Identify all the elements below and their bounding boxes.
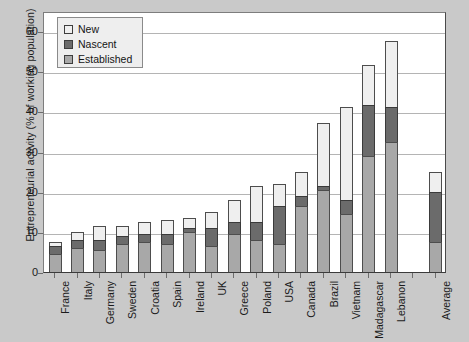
bar-segment-established[interactable] bbox=[93, 250, 106, 272]
bar-segment-new[interactable] bbox=[340, 107, 353, 199]
bar-stack[interactable] bbox=[429, 172, 442, 272]
y-tick-label: 30 bbox=[0, 146, 38, 158]
bar-stack[interactable] bbox=[161, 220, 174, 272]
bar-segment-new[interactable] bbox=[71, 232, 84, 240]
bar-segment-new[interactable] bbox=[273, 184, 286, 206]
y-tick-label: 40 bbox=[0, 105, 38, 117]
bar-stack[interactable] bbox=[116, 226, 129, 272]
x-tick-label: Italy bbox=[82, 281, 94, 342]
bar-segment-established[interactable] bbox=[295, 206, 308, 272]
bar-segment-established[interactable] bbox=[317, 190, 330, 272]
y-tick-label: 50 bbox=[0, 65, 38, 77]
legend-item-established: Established bbox=[64, 52, 137, 66]
bar-segment-new[interactable] bbox=[429, 172, 442, 192]
bar-segment-established[interactable] bbox=[71, 248, 84, 272]
bar-segment-established[interactable] bbox=[273, 244, 286, 272]
bar-segment-established[interactable] bbox=[228, 234, 241, 272]
bar-segment-new[interactable] bbox=[295, 172, 308, 196]
bar-segment-nascent[interactable] bbox=[93, 240, 106, 250]
legend-item-new: New bbox=[64, 22, 137, 36]
bar-segment-nascent[interactable] bbox=[49, 246, 62, 254]
x-tick-mark bbox=[256, 273, 257, 278]
bar-segment-established[interactable] bbox=[340, 214, 353, 272]
bar-segment-nascent[interactable] bbox=[228, 222, 241, 234]
legend-swatch-nascent bbox=[64, 40, 73, 49]
x-tick-mark bbox=[300, 273, 301, 278]
bar-segment-established[interactable] bbox=[161, 244, 174, 272]
bar-segment-nascent[interactable] bbox=[295, 196, 308, 206]
bar-segment-nascent[interactable] bbox=[71, 240, 84, 248]
legend-swatch-new bbox=[64, 25, 73, 34]
y-axis-title: Entrepreneurial activity (% of working p… bbox=[24, 0, 38, 260]
x-tick-mark bbox=[99, 273, 100, 278]
x-tick-label: Germany bbox=[104, 281, 116, 342]
bar-stack[interactable] bbox=[273, 184, 286, 272]
legend-label-established: Established bbox=[78, 53, 132, 65]
x-tick-label: Croatia bbox=[149, 281, 161, 342]
bar-segment-new[interactable] bbox=[183, 218, 196, 228]
x-tick-mark bbox=[278, 273, 279, 278]
bar-segment-established[interactable] bbox=[183, 232, 196, 272]
bar-stack[interactable] bbox=[93, 226, 106, 272]
bar-segment-nascent[interactable] bbox=[116, 236, 129, 244]
bar-segment-established[interactable] bbox=[250, 240, 263, 272]
bar-segment-nascent[interactable] bbox=[362, 105, 375, 155]
bar-segment-new[interactable] bbox=[161, 220, 174, 234]
x-tick-mark bbox=[368, 273, 369, 278]
bar-stack[interactable] bbox=[228, 200, 241, 272]
bar-stack[interactable] bbox=[49, 242, 62, 272]
bar-stack[interactable] bbox=[385, 41, 398, 272]
x-tick-label: Madagascar bbox=[373, 281, 385, 342]
bar-segment-nascent[interactable] bbox=[340, 200, 353, 214]
x-tick-label: Lebanon bbox=[395, 281, 407, 342]
bar-stack[interactable] bbox=[295, 172, 308, 272]
bar-stack[interactable] bbox=[250, 186, 263, 272]
bar-segment-new[interactable] bbox=[385, 41, 398, 107]
x-tick-label: Canada bbox=[305, 281, 317, 342]
bar-stack[interactable] bbox=[183, 218, 196, 272]
x-tick-mark bbox=[412, 273, 413, 278]
legend-label-nascent: Nascent bbox=[78, 38, 117, 50]
bar-segment-established[interactable] bbox=[116, 244, 129, 272]
bar-stack[interactable] bbox=[340, 107, 353, 272]
bar-stack[interactable] bbox=[317, 123, 330, 272]
chart-container: Entrepreneurial activity (% of working p… bbox=[0, 0, 469, 342]
bar-stack[interactable] bbox=[205, 212, 218, 272]
bar-segment-nascent[interactable] bbox=[250, 222, 263, 240]
bar-segment-established[interactable] bbox=[429, 242, 442, 272]
bar-segment-new[interactable] bbox=[362, 65, 375, 105]
bar-segment-established[interactable] bbox=[138, 242, 151, 272]
bar-segment-nascent[interactable] bbox=[161, 234, 174, 244]
legend-swatch-established bbox=[64, 55, 73, 64]
bar-segment-new[interactable] bbox=[93, 226, 106, 240]
legend-item-nascent: Nascent bbox=[64, 37, 137, 51]
y-tick-mark bbox=[38, 273, 43, 274]
bar-segment-established[interactable] bbox=[49, 254, 62, 272]
x-tick-label: Average bbox=[440, 281, 452, 342]
bar-segment-new[interactable] bbox=[138, 222, 151, 234]
bar-stack[interactable] bbox=[138, 222, 151, 272]
bar-segment-established[interactable] bbox=[362, 156, 375, 272]
bar-segment-new[interactable] bbox=[317, 123, 330, 185]
bar-segment-new[interactable] bbox=[205, 212, 218, 228]
bar-segment-established[interactable] bbox=[385, 142, 398, 273]
y-tick-label: 10 bbox=[0, 226, 38, 238]
bar-segment-new[interactable] bbox=[228, 200, 241, 222]
legend-label-new: New bbox=[78, 23, 99, 35]
bar-segment-new[interactable] bbox=[250, 186, 263, 222]
bar-segment-established[interactable] bbox=[205, 246, 218, 272]
chart-legend: New Nascent Established bbox=[57, 17, 143, 68]
bar-segment-nascent[interactable] bbox=[273, 206, 286, 244]
x-tick-mark bbox=[211, 273, 212, 278]
bar-segment-nascent[interactable] bbox=[429, 192, 442, 242]
bar-segment-nascent[interactable] bbox=[385, 107, 398, 141]
bar-segment-nascent[interactable] bbox=[138, 234, 151, 242]
x-tick-label: Ireland bbox=[194, 281, 206, 342]
x-tick-label: Poland bbox=[261, 281, 273, 342]
bar-stack[interactable] bbox=[362, 65, 375, 272]
bar-segment-nascent[interactable] bbox=[205, 228, 218, 246]
x-tick-mark bbox=[54, 273, 55, 278]
bar-segment-new[interactable] bbox=[116, 226, 129, 236]
x-tick-mark bbox=[189, 273, 190, 278]
bar-stack[interactable] bbox=[71, 232, 84, 272]
